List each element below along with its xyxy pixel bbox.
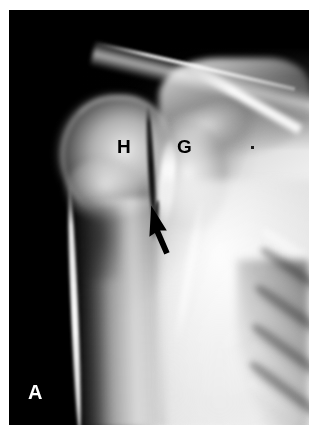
film-marker-dot — [251, 146, 254, 149]
label-humeral-head: H — [117, 137, 131, 156]
joint-space-arrow-icon — [140, 200, 176, 260]
panel-letter: A — [28, 382, 42, 402]
radiograph-image: H G A — [9, 10, 309, 425]
figure-panel: H G A — [0, 0, 318, 435]
humeral-neck-shadow — [81, 206, 121, 280]
label-glenoid: G — [177, 137, 192, 156]
axilla-soft-tissue-shadow — [237, 260, 309, 425]
